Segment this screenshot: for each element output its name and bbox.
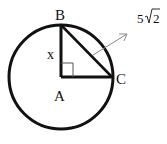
- label-b: B: [55, 7, 65, 23]
- label-a: A: [54, 88, 65, 104]
- label-c: C: [116, 71, 126, 87]
- hyp-coefficient: 5: [137, 11, 144, 26]
- label-x: x: [47, 47, 54, 62]
- geometry-diagram: B C A x 5 2: [0, 0, 167, 144]
- right-angle-marker: [61, 63, 73, 77]
- diagram-svg: B C A x 5 2: [0, 0, 167, 144]
- hypotenuse-label: 5 2: [137, 9, 160, 26]
- hyp-radicand: 2: [153, 11, 160, 26]
- annotation-arrow: [93, 34, 127, 55]
